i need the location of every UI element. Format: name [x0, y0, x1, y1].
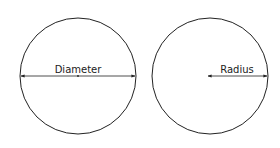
radius-label: Radius	[220, 64, 254, 75]
left-center-dot	[77, 75, 79, 77]
radius-figure: Radius	[152, 18, 268, 134]
circle-diagram: Diameter Radius	[0, 0, 280, 148]
diameter-label: Diameter	[55, 64, 103, 75]
diameter-figure: Diameter	[20, 18, 136, 134]
